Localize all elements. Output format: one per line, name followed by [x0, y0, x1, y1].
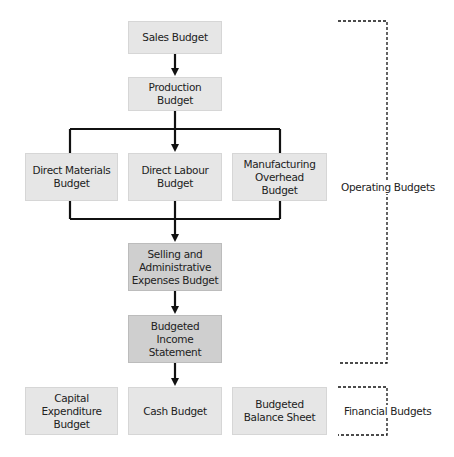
income-statement-node: Budgeted Income Statement — [128, 315, 222, 363]
direct-materials-node: Direct Materials Budget — [25, 153, 118, 201]
selling-admin-label: Selling and Administrative Expenses Budg… — [131, 248, 219, 287]
sales-budget-node: Sales Budget — [128, 21, 222, 54]
capital-expenditure-label: Capital Expenditure Budget — [34, 392, 109, 431]
direct-labour-label: Direct Labour Budget — [137, 164, 213, 190]
direct-labour-node: Direct Labour Budget — [128, 153, 222, 201]
cash-budget-node: Cash Budget — [128, 387, 222, 435]
balance-sheet-label: Budgeted Balance Sheet — [243, 398, 316, 424]
bracket-lines — [338, 21, 387, 435]
balance-sheet-node: Budgeted Balance Sheet — [232, 387, 327, 435]
sales-budget-label: Sales Budget — [142, 31, 207, 44]
capital-expenditure-node: Capital Expenditure Budget — [25, 387, 118, 435]
cash-budget-label: Cash Budget — [143, 405, 207, 418]
selling-admin-node: Selling and Administrative Expenses Budg… — [128, 243, 222, 291]
production-budget-node: Production Budget — [128, 77, 222, 111]
operating-budgets-label: Operating Budgets — [341, 181, 435, 194]
manufacturing-overhead-node: Manufacturing Overhead Budget — [232, 153, 327, 201]
income-statement-label: Budgeted Income Statement — [143, 320, 207, 359]
direct-materials-label: Direct Materials Budget — [30, 164, 113, 190]
financial-budgets-label: Financial Budgets — [344, 405, 431, 417]
production-budget-label: Production Budget — [143, 81, 207, 107]
manufacturing-overhead-label: Manufacturing Overhead Budget — [239, 158, 320, 197]
